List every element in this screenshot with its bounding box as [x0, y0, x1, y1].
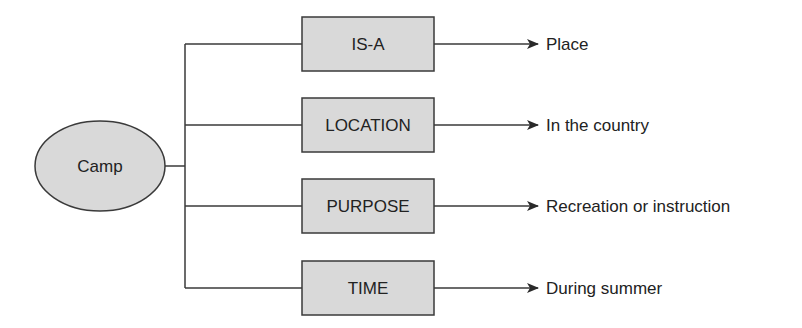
slot-is-a: IS-A Place [302, 17, 589, 71]
value-label-time: During summer [546, 279, 663, 298]
diagram-canvas: Camp IS-A Place LOCATION In the country [0, 0, 802, 328]
relation-label-location: LOCATION [325, 116, 411, 135]
frame-diagram: Camp IS-A Place LOCATION In the country [0, 0, 802, 328]
root-label: Camp [77, 157, 122, 176]
slot-location: LOCATION In the country [302, 98, 650, 152]
slot-purpose: PURPOSE Recreation or instruction [302, 179, 730, 233]
value-label-location: In the country [546, 116, 650, 135]
relation-label-purpose: PURPOSE [326, 197, 409, 216]
value-label-purpose: Recreation or instruction [546, 197, 730, 216]
relation-label-is-a: IS-A [351, 35, 385, 54]
value-label-is-a: Place [546, 35, 589, 54]
root-node-camp: Camp [35, 121, 165, 211]
relation-label-time: TIME [348, 279, 389, 298]
slot-time: TIME During summer [302, 261, 663, 315]
connector-lines [165, 44, 302, 288]
